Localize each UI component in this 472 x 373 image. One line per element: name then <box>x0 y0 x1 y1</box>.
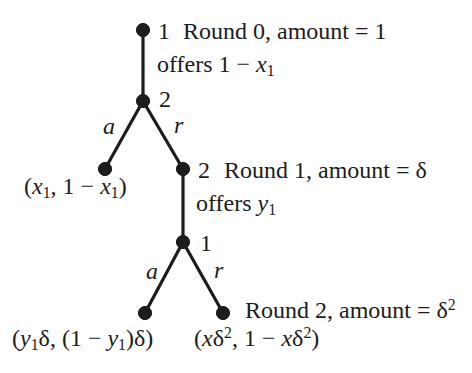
node4-dot <box>176 235 189 248</box>
root-player-label: 1 <box>158 18 170 45</box>
node3-round-info: Round 1, amount = δ <box>224 157 427 184</box>
node2-player-label: 2 <box>159 86 171 113</box>
root-node-dot <box>136 23 149 36</box>
root-offer-label: offers 1 − x1 <box>157 51 275 78</box>
upper-accept-edge-label: a <box>103 113 115 140</box>
game-tree-figure: 1 Round 0, amount = 1 offers 1 − x1 2 a … <box>0 0 472 373</box>
payoff-accept-round0: (x1, 1 − x1) <box>24 173 127 200</box>
node3-dot <box>176 162 189 175</box>
payoff-accept-round1: (y1δ, (1 − y1)δ) <box>12 325 153 352</box>
lower-reject-edge-label: r <box>214 257 223 284</box>
root-round-info: Round 0, amount = 1 <box>183 18 387 45</box>
node3-offer-label: offers y1 <box>196 190 276 217</box>
payoff-reject-round1: (xδ2, 1 − xδ2) <box>194 325 319 352</box>
round2-info: Round 2, amount = δ2 <box>245 297 456 324</box>
node4-player-label: 1 <box>200 230 212 257</box>
node2-dot <box>136 94 149 107</box>
leaf-reject-round1-dot <box>216 306 229 319</box>
node3-player-label: 2 <box>198 157 210 184</box>
lower-accept-edge-label: a <box>146 258 158 285</box>
upper-reject-edge-label: r <box>174 112 183 139</box>
leaf-accept-round1-dot <box>138 306 151 319</box>
